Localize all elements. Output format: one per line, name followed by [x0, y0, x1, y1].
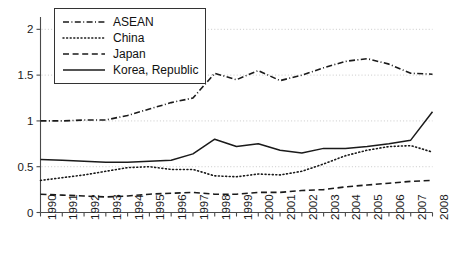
legend-item: China	[62, 30, 197, 46]
x-tick-label: 1992	[89, 194, 101, 220]
x-tick-label: 1994	[133, 194, 145, 220]
legend-line-sample-dashdot	[62, 15, 106, 29]
x-tick-label: 2008	[438, 194, 450, 220]
y-tick-label: 1	[0, 115, 34, 127]
x-tick-label: 2000	[263, 194, 275, 220]
x-tick-label: 1999	[242, 194, 254, 220]
x-tick-label: 1997	[198, 194, 210, 220]
series-line-china	[41, 146, 433, 181]
x-tick-label: 1991	[67, 194, 79, 220]
legend-item: Japan	[62, 46, 197, 62]
chart-legend: ASEANChinaJapanKorea, Republic	[54, 8, 206, 84]
y-tick-label: 0.5	[0, 161, 34, 173]
y-tick-label: 1.5	[0, 69, 34, 81]
x-tick-label: 1995	[154, 194, 166, 220]
x-tick-label: 2002	[307, 194, 319, 220]
x-tick-label: 1996	[176, 194, 188, 220]
y-tick-label: 0	[0, 207, 34, 219]
x-tick-label: 1993	[111, 194, 123, 220]
legend-label: Korea, Republic	[113, 63, 198, 77]
x-tick-label: 2005	[372, 194, 384, 220]
x-tick-label: 2007	[416, 194, 428, 220]
legend-item: ASEAN	[62, 14, 197, 30]
y-tick-label: 2	[0, 23, 34, 35]
x-tick-label: 2006	[394, 194, 406, 220]
legend-item: Korea, Republic	[62, 62, 197, 78]
x-tick-label: 1990	[46, 194, 58, 220]
legend-label: ASEAN	[113, 15, 154, 29]
x-tick-label: 2003	[329, 194, 341, 220]
legend-line-sample-dashed	[62, 47, 106, 61]
legend-line-sample-solid	[62, 63, 106, 77]
legend-label: Japan	[113, 47, 146, 61]
legend-label: China	[113, 31, 144, 45]
legend-line-sample-dotted	[62, 31, 106, 45]
x-tick-label: 2004	[350, 194, 362, 220]
x-tick-label: 1998	[220, 194, 232, 220]
series-line-korea-republic	[41, 112, 433, 162]
x-tick-label: 2001	[285, 194, 297, 220]
